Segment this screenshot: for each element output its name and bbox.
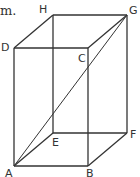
label-F: F [130, 128, 136, 141]
label-E: E [52, 136, 59, 149]
label-G: G [129, 4, 138, 17]
edge-CG [88, 15, 127, 48]
edge-DH [14, 15, 53, 48]
label-B: B [86, 167, 94, 177]
label-H: H [39, 3, 47, 16]
prism-diagram: H G D C E F A B [0, 0, 140, 177]
label-D: D [1, 41, 9, 54]
edge-BF [88, 133, 127, 166]
label-C: C [78, 52, 86, 65]
label-A: A [5, 167, 13, 177]
edge-AE [14, 133, 53, 166]
diagonal-AG [14, 15, 127, 166]
